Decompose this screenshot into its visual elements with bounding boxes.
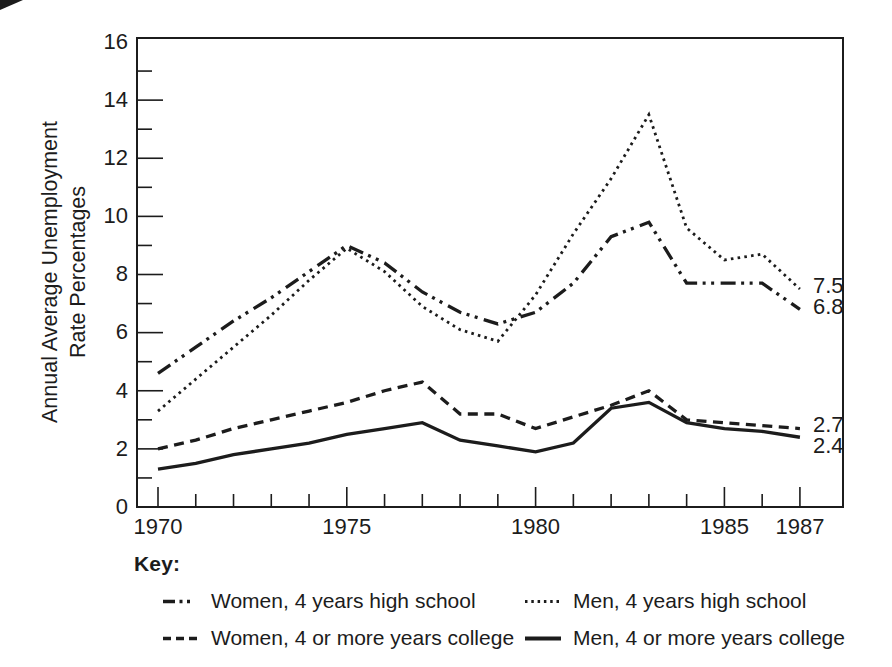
y-axis-title-line: Annual Average Unemployment	[38, 121, 62, 423]
key-entry-women-4yr-high-school: Women, 4 years high school	[162, 589, 524, 613]
solid-swatch-icon	[524, 634, 562, 643]
series-end-label-men-4plus-college: 2.4	[813, 433, 844, 458]
key-entry-label: Men, 4 years high school	[573, 589, 806, 613]
plot-border	[137, 38, 843, 507]
series-end-label-women-4yr-high-school: 6.8	[813, 294, 844, 319]
x-tick-label: 1987	[775, 514, 824, 539]
series-line-women-4plus-college	[158, 382, 800, 449]
x-tick-label: 1975	[322, 514, 371, 539]
scanned-chart-figure: 024681012141619701975198019851987Annual …	[0, 0, 892, 667]
key-grid: Women, 4 years high school Men, 4 years …	[162, 589, 845, 650]
key-entry-men-4yr-high-school: Men, 4 years high school	[524, 589, 845, 613]
dash-dot-dot-swatch-icon	[162, 597, 200, 606]
y-tick-label: 6	[116, 319, 128, 344]
y-tick-label: 16	[104, 29, 128, 54]
dotted-swatch-icon	[524, 597, 562, 606]
key-entry-label: Men, 4 or more years college	[573, 626, 845, 650]
key-title: Key:	[134, 552, 845, 576]
chart-key: Key: Women, 4 years high school Men, 4 y…	[134, 552, 845, 650]
y-tick-label: 4	[116, 378, 128, 403]
unemployment-line-chart: 024681012141619701975198019851987Annual …	[0, 0, 892, 548]
series-line-men-4plus-college	[158, 402, 800, 469]
y-tick-label: 8	[116, 261, 128, 286]
y-tick-label: 10	[104, 203, 128, 228]
y-tick-label: 2	[116, 436, 128, 461]
key-entry-men-4plus-college: Men, 4 or more years college	[524, 626, 845, 650]
x-tick-label: 1985	[700, 514, 749, 539]
key-entry-label: Women, 4 years high school	[211, 589, 476, 613]
series-line-men-4yr-high-school	[158, 115, 800, 411]
x-tick-label: 1980	[511, 514, 560, 539]
dashed-swatch-icon	[162, 634, 200, 643]
series-line-women-4yr-high-school	[158, 222, 800, 373]
x-tick-label: 1970	[134, 514, 183, 539]
y-tick-label: 14	[104, 87, 128, 112]
scan-corner-artifact	[0, 0, 23, 10]
y-axis-title-line: Rate Percentages	[66, 186, 90, 358]
y-tick-label: 0	[116, 494, 128, 519]
key-entry-women-4plus-college: Women, 4 or more years college	[162, 626, 524, 650]
y-tick-label: 12	[104, 145, 128, 170]
key-entry-label: Women, 4 or more years college	[211, 626, 514, 650]
